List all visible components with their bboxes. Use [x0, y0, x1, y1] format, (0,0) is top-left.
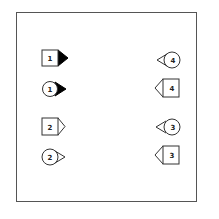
label-2b: 2 — [48, 154, 53, 162]
square-4-outline-pointer-icon: 4 — [155, 79, 179, 97]
label-3b: 3 — [170, 152, 175, 160]
square-1-filled-pointer-icon: 1 — [42, 50, 68, 66]
circle-3-outline-pointer-icon: 3 — [156, 119, 180, 135]
circle-4-outline-pointer-icon: 4 — [157, 52, 180, 68]
label-1: 1 — [48, 55, 53, 63]
label-1b: 1 — [48, 86, 53, 94]
label-3: 3 — [171, 124, 176, 132]
square-2-outline-pointer-icon: 2 — [42, 118, 65, 135]
label-4: 4 — [171, 57, 176, 65]
square-3-outline-pointer-icon: 3 — [155, 146, 179, 164]
circle-1-filled-pointer-icon: 1 — [43, 82, 67, 97]
label-4b: 4 — [170, 85, 175, 93]
label-2: 2 — [48, 124, 53, 132]
circle-2-outline-pointer-icon: 2 — [42, 149, 65, 165]
symbols-diagram: 1 1 2 2 4 4 3 3 — [0, 0, 219, 219]
